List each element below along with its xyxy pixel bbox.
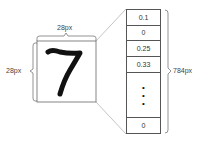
vector-cell-last: 0 [126, 117, 161, 134]
vector-brace [165, 10, 171, 133]
vector-cell-0: 0.1 [126, 9, 161, 26]
projection-line-top [96, 9, 126, 41]
height-label: 28px [6, 67, 21, 74]
width-brace [37, 33, 96, 41]
vector-cell-1: 0 [126, 25, 161, 41]
vector-cell-3: 0.33 [126, 56, 161, 73]
vector-length-label: 784px [173, 67, 192, 74]
width-label: 28px [57, 24, 72, 31]
vector-cell-2: 0.25 [126, 40, 161, 57]
projection-line-bottom [96, 102, 126, 134]
vector-ellipsis: • • • [126, 72, 161, 118]
height-brace [30, 43, 37, 101]
